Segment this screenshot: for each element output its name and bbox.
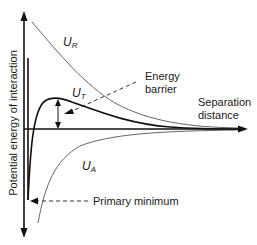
energy-barrier-label-line1: Energy [145, 70, 180, 82]
repulsive-subscript: R [72, 41, 78, 50]
attractive-curve-label: UA [82, 160, 96, 176]
total-symbol: U [72, 86, 81, 100]
energy-barrier-label-line2: barrier [145, 83, 177, 95]
primary-minimum-leader [30, 198, 88, 205]
attractive-symbol: U [82, 159, 91, 173]
y-axis [21, 11, 28, 238]
total-curve-label: UT [72, 87, 86, 103]
dlvo-potential-diagram: Potential energy of interaction UR UT UA… [0, 0, 257, 245]
x-axis-label-line1: Separation [198, 96, 251, 108]
repulsive-symbol: U [63, 35, 72, 49]
diagram-canvas [0, 0, 257, 245]
attractive-subscript: A [91, 165, 96, 174]
attractive-curve [38, 130, 238, 223]
y-axis-label: Potential energy of interaction [7, 48, 19, 198]
total-subscript: T [81, 92, 86, 101]
repulsive-curve-label: UR [63, 36, 77, 52]
energy-barrier-arrow [55, 99, 61, 129]
x-axis-label-line2: distance [198, 109, 239, 121]
primary-minimum-label: Primary minimum [93, 195, 179, 207]
